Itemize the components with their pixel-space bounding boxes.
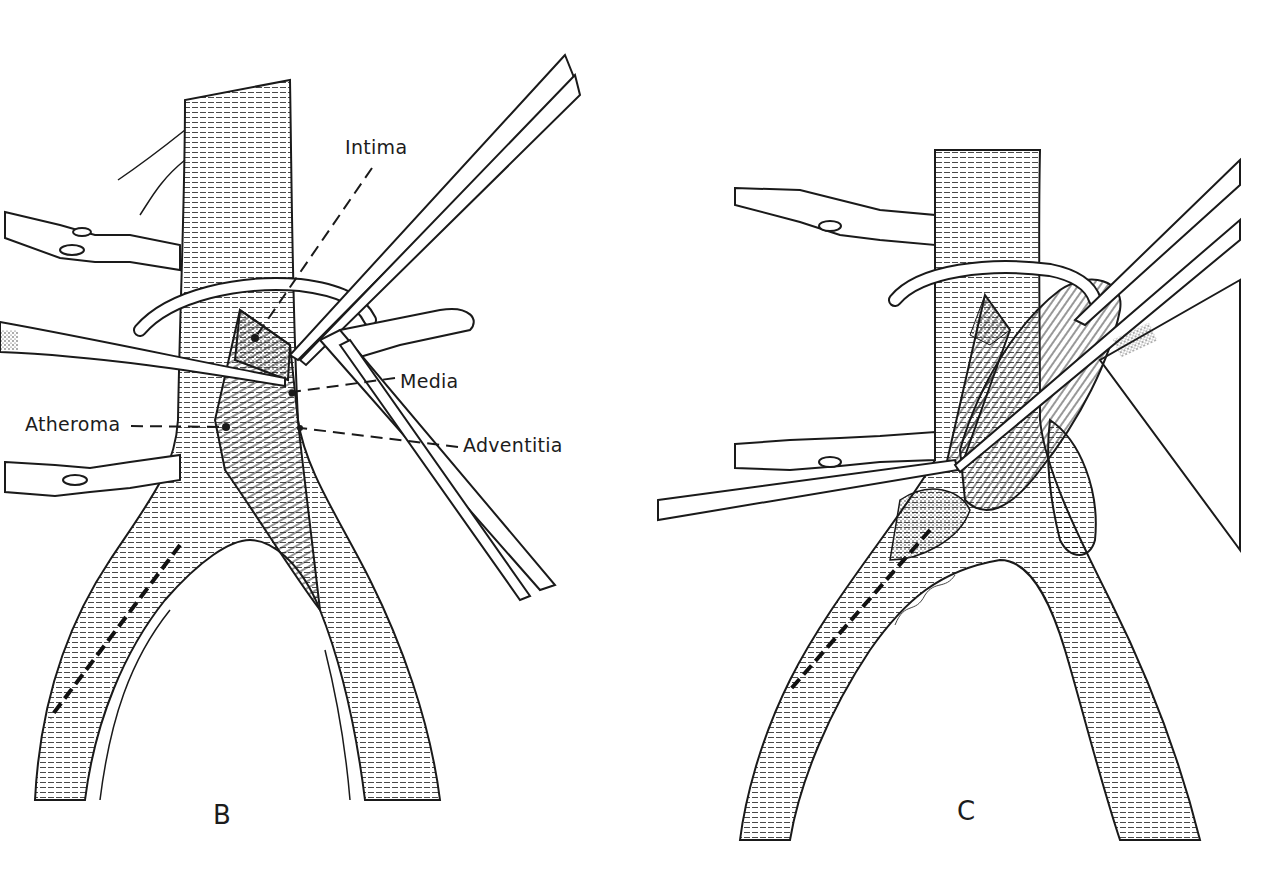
vascular-clamp-lower — [5, 455, 180, 496]
panel-letter-c: C — [957, 796, 975, 826]
label-intima: Intima — [345, 136, 407, 158]
label-media: Media — [400, 370, 459, 392]
instruments-c — [658, 160, 1240, 550]
panel-letter-b: B — [213, 800, 231, 830]
artist-signature — [895, 575, 955, 625]
label-atheroma: Atheroma — [25, 413, 120, 435]
vascular-clamp-c-upper — [735, 188, 935, 245]
vascular-clamp-c-lower — [735, 432, 935, 470]
aorta-trunk-c — [740, 150, 1200, 840]
figure-canvas: Intima Media Atheroma Adventitia B C — [0, 0, 1271, 874]
vascular-clamp-upper — [5, 212, 180, 270]
label-adventitia: Adventitia — [463, 434, 563, 456]
